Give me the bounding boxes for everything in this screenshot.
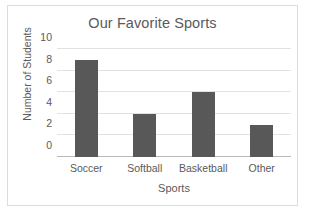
- bar: [75, 60, 98, 157]
- x-axis-title: Sports: [57, 182, 291, 194]
- plot-area: 0246810: [57, 49, 291, 157]
- y-tick-label: 2: [46, 117, 52, 129]
- y-tick-label: 0: [46, 139, 52, 151]
- x-tick-label: Soccer: [57, 162, 116, 174]
- x-tick-label: Other: [233, 162, 292, 174]
- bar-slot: [174, 49, 233, 157]
- bar: [192, 92, 215, 157]
- y-axis-title: Number of Students: [21, 19, 33, 129]
- y-tick-label: 4: [46, 96, 52, 108]
- chart-frame: Our Favorite Sports Number of Students 0…: [7, 5, 298, 206]
- bar-slot: [116, 49, 175, 157]
- bar-slot: [233, 49, 292, 157]
- x-tick-label: Softball: [116, 162, 175, 174]
- y-tick-label: 8: [46, 53, 52, 65]
- bar: [133, 114, 156, 157]
- y-tick-label: 10: [40, 31, 52, 43]
- x-tick-label: Basketball: [174, 162, 233, 174]
- y-tick-label: 6: [46, 74, 52, 86]
- chart-title: Our Favorite Sports: [8, 15, 297, 31]
- x-axis-ticks: SoccerSoftballBasketballOther: [57, 162, 291, 174]
- bar-series: [57, 49, 291, 157]
- bar: [250, 125, 273, 157]
- bar-slot: [57, 49, 116, 157]
